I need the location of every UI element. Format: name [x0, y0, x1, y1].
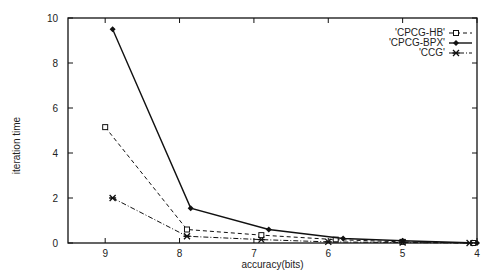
y-tick-label: 4: [52, 148, 58, 159]
x-tick-label: 6: [325, 248, 331, 259]
legend-marker-star: [453, 50, 460, 56]
y-tick-label: 6: [52, 103, 58, 114]
data-point-star: [109, 195, 116, 201]
series-line-2: [113, 198, 470, 243]
x-tick-label: 5: [400, 248, 406, 259]
plot-frame: [68, 18, 477, 243]
y-tick-label: 10: [47, 13, 59, 24]
series-line-0: [105, 127, 473, 243]
data-point-diamond: [340, 236, 346, 242]
x-axis-label: accuracy(bits): [241, 259, 303, 270]
data-point-diamond: [110, 26, 116, 32]
data-point-star: [183, 233, 190, 239]
data-point-diamond: [266, 227, 272, 233]
y-tick-label: 8: [52, 58, 58, 69]
legend-marker-square: [454, 31, 459, 36]
y-tick-label: 2: [52, 193, 58, 204]
y-tick-label: 0: [52, 238, 58, 249]
series-line-1: [113, 29, 477, 243]
data-point-square: [103, 125, 108, 130]
data-point-square: [184, 227, 189, 232]
x-tick-label: 4: [474, 248, 480, 259]
y-axis-label: iteration time: [11, 116, 22, 174]
data-point-square: [259, 233, 264, 238]
legend-label: 'CCG': [419, 47, 445, 58]
line-chart: 0246810987654accuracy(bits)iteration tim…: [0, 0, 494, 280]
x-tick-label: 8: [177, 248, 183, 259]
data-point-diamond: [188, 205, 194, 211]
x-tick-label: 7: [251, 248, 257, 259]
data-point-star: [466, 240, 473, 246]
legend-marker-diamond: [453, 40, 459, 46]
x-tick-label: 9: [102, 248, 108, 259]
